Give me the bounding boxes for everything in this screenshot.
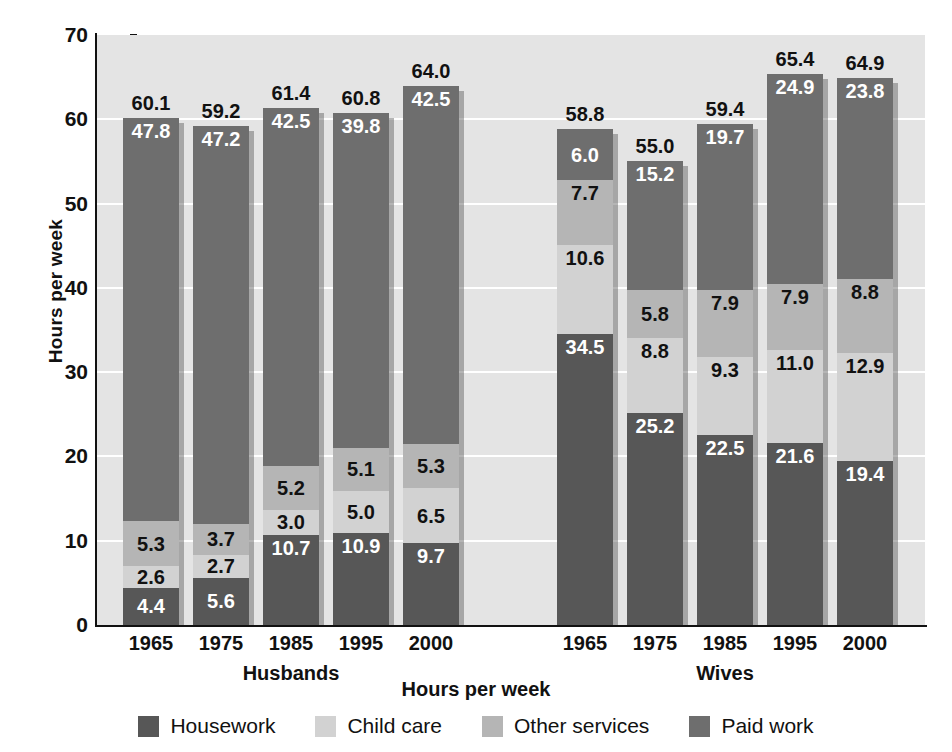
bar-segment-housework[interactable]: 25.2	[627, 413, 683, 625]
legend-item-child-care[interactable]: Child care	[315, 714, 442, 738]
bar-segment-paid-work[interactable]: 23.8	[837, 78, 893, 279]
bar-segment-child-care[interactable]: 11.0	[767, 350, 823, 443]
bar-shadow	[823, 79, 828, 625]
bar-husbands-1995[interactable]: 10.95.05.139.860.8	[333, 113, 389, 625]
x-axis-tick-wives-2000: 2000	[820, 632, 910, 655]
legend-item-other-services[interactable]: Other services	[482, 714, 649, 738]
bar-segment-other-services[interactable]: 5.1	[333, 448, 389, 491]
bar-shadow	[893, 83, 898, 625]
bar-segment-other-services[interactable]: 8.8	[837, 279, 893, 353]
bar-segment-child-care[interactable]: 2.6	[123, 566, 179, 588]
bar-husbands-1975[interactable]: 5.62.73.747.259.2	[193, 126, 249, 625]
bar-husbands-1985[interactable]: 10.73.05.242.561.4	[263, 108, 319, 626]
bar-husbands-2000[interactable]: 9.76.55.342.564.0	[403, 86, 459, 625]
y-axis-tick-label: 50	[40, 192, 88, 216]
segment-value-label: 5.3	[417, 456, 445, 476]
bar-stack: 4.42.65.347.8	[123, 118, 179, 625]
bar-wives-1995[interactable]: 21.611.07.924.965.4	[767, 74, 823, 625]
bar-segment-child-care[interactable]: 5.0	[333, 491, 389, 533]
segment-value-label: 7.9	[781, 287, 809, 307]
legend-item-housework[interactable]: Housework	[138, 714, 275, 738]
bar-segment-housework[interactable]: 10.7	[263, 535, 319, 625]
bar-shadow	[389, 118, 394, 625]
bar-segment-child-care[interactable]: 8.8	[627, 338, 683, 412]
bar-wives-1985[interactable]: 22.59.37.919.759.4	[697, 124, 753, 625]
x-axis-line	[95, 625, 927, 627]
bar-segment-housework[interactable]: 9.7	[403, 543, 459, 625]
y-axis-tick-labels: 010203040506070	[40, 35, 88, 625]
bar-segment-other-services[interactable]: 5.2	[263, 466, 319, 510]
y-axis-tick-label: 70	[40, 23, 88, 47]
bar-segment-other-services[interactable]: 3.7	[193, 524, 249, 555]
bar-segment-paid-work[interactable]: 24.9	[767, 74, 823, 284]
bar-husbands-1965[interactable]: 4.42.65.347.860.1	[123, 118, 179, 625]
bar-segment-housework[interactable]: 34.5	[557, 334, 613, 625]
bar-segment-child-care[interactable]: 3.0	[263, 510, 319, 535]
bar-segment-housework[interactable]: 21.6	[767, 443, 823, 625]
bar-wives-1975[interactable]: 25.28.85.815.255.0	[627, 161, 683, 625]
bar-wives-1965[interactable]: 34.510.67.76.058.8	[557, 129, 613, 625]
bar-segment-child-care[interactable]: 2.7	[193, 555, 249, 578]
segment-value-label: 8.8	[641, 341, 669, 361]
bar-segment-child-care[interactable]: 6.5	[403, 488, 459, 543]
bar-segment-other-services[interactable]: 5.8	[627, 290, 683, 339]
segment-value-label: 15.2	[636, 164, 675, 184]
bar-total-label: 64.9	[846, 52, 885, 75]
bar-segment-child-care[interactable]: 9.3	[697, 357, 753, 435]
bar-segment-other-services[interactable]: 7.9	[767, 284, 823, 351]
segment-value-label: 10.7	[272, 538, 311, 558]
segment-value-label: 11.0	[776, 353, 814, 373]
bar-segment-paid-work[interactable]: 39.8	[333, 113, 389, 448]
bar-total-label: 59.4	[706, 98, 745, 121]
bar-segment-paid-work[interactable]: 47.8	[123, 118, 179, 521]
bar-shadow	[249, 131, 254, 625]
bar-segment-other-services[interactable]: 7.7	[557, 180, 613, 245]
bar-wives-2000[interactable]: 19.412.98.823.864.9	[837, 78, 893, 625]
segment-value-label: 25.2	[636, 416, 675, 436]
bar-segment-child-care[interactable]: 10.6	[557, 245, 613, 334]
segment-value-label: 5.2	[277, 478, 305, 498]
bar-segment-child-care[interactable]: 12.9	[837, 353, 893, 462]
bar-segment-paid-work[interactable]: 19.7	[697, 124, 753, 290]
bar-segment-other-services[interactable]: 7.9	[697, 290, 753, 357]
segment-value-label: 7.7	[571, 183, 599, 203]
segment-value-label: 6.0	[571, 145, 599, 165]
segment-value-label: 5.6	[207, 591, 235, 611]
bar-total-label: 61.4	[272, 82, 311, 105]
segment-value-label: 2.6	[137, 567, 165, 587]
bar-segment-housework[interactable]: 5.6	[193, 578, 249, 625]
bar-segment-housework[interactable]: 4.4	[123, 588, 179, 625]
segment-value-label: 24.9	[776, 77, 815, 97]
bar-total-label: 60.8	[342, 87, 381, 110]
bar-segment-other-services[interactable]: 5.3	[123, 521, 179, 566]
bar-segment-housework[interactable]: 19.4	[837, 461, 893, 625]
segment-value-label: 3.0	[277, 512, 305, 532]
segment-value-label: 2.7	[207, 556, 235, 576]
bar-stack: 5.62.73.747.2	[193, 126, 249, 625]
bar-segment-paid-work[interactable]: 42.5	[263, 108, 319, 466]
legend-swatch-icon	[138, 716, 159, 737]
segment-value-label: 5.0	[347, 502, 375, 522]
bar-segment-housework[interactable]: 22.5	[697, 435, 753, 625]
bar-segment-other-services[interactable]: 5.3	[403, 444, 459, 489]
chart-legend: HouseworkChild careOther servicesPaid wo…	[0, 714, 952, 738]
x-axis-title: Hours per week	[0, 678, 952, 701]
bar-segment-paid-work[interactable]: 15.2	[627, 161, 683, 289]
legend-label: Housework	[170, 714, 275, 738]
bar-total-label: 60.1	[132, 92, 171, 115]
bar-segment-paid-work[interactable]: 6.0	[557, 129, 613, 180]
bar-total-label: 59.2	[202, 100, 241, 123]
legend-item-paid-work[interactable]: Paid work	[689, 714, 813, 738]
bar-stack: 21.611.07.924.9	[767, 74, 823, 625]
segment-value-label: 5.8	[641, 304, 669, 324]
bar-shadow	[319, 113, 324, 626]
bar-total-label: 64.0	[412, 60, 451, 83]
bar-segment-housework[interactable]: 10.9	[333, 533, 389, 625]
segment-value-label: 42.5	[412, 89, 451, 109]
segment-value-label: 10.6	[566, 248, 605, 268]
bar-total-label: 65.4	[776, 48, 815, 71]
bar-segment-paid-work[interactable]: 47.2	[193, 126, 249, 524]
segment-value-label: 47.8	[132, 121, 171, 141]
bar-segment-paid-work[interactable]: 42.5	[403, 86, 459, 444]
segment-value-label: 22.5	[706, 438, 745, 458]
